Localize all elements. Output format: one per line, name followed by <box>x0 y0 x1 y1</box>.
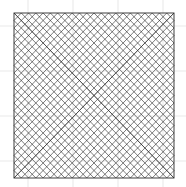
grid-lines <box>0 0 186 187</box>
background-grid <box>0 0 186 187</box>
figure-canvas <box>0 0 186 187</box>
